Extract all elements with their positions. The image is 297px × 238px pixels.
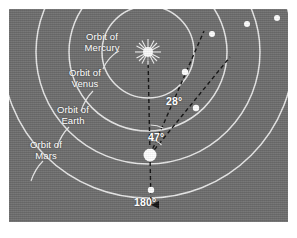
planet-marker-upper-a (209, 31, 215, 37)
orbit-elongation-figure: Orbit of Mercury Orbit of Venus Orbit of… (0, 0, 297, 238)
planet-marker-upper-c (274, 15, 280, 21)
leader-mercury (103, 51, 119, 69)
angle-arc-28 (151, 125, 163, 128)
orbit-label-venus: Orbit of Venus (46, 68, 124, 89)
leader-mars (31, 161, 43, 181)
planet-marker-upper-b (244, 21, 250, 27)
earth-marker (144, 149, 157, 162)
angle-label-47: 47° (148, 131, 164, 143)
orbit-label-mercury: Orbit of Mercury (62, 32, 142, 53)
planet-marker-mercury (182, 69, 188, 75)
planet-marker-mars (148, 187, 154, 193)
planet-marker-venus (193, 105, 199, 111)
angle-label-180: 180° (134, 196, 157, 208)
orbit-mars (9, 9, 288, 198)
angle-label-28: 28° (166, 95, 182, 107)
orbit-label-earth: Orbit of Earth (35, 105, 111, 126)
orbit-label-mars: Orbit of Mars (10, 140, 82, 161)
